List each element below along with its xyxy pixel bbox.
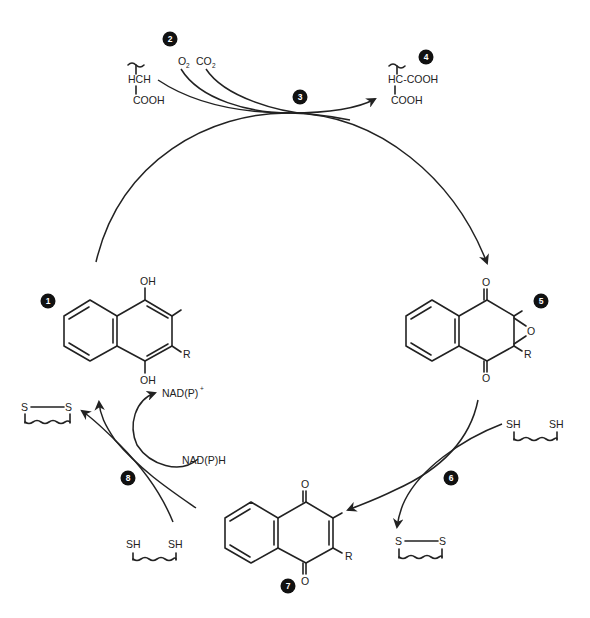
product-top-label: HC-COOH bbox=[388, 73, 438, 85]
svg-text:+: + bbox=[200, 385, 204, 392]
svg-text:S: S bbox=[65, 401, 72, 413]
protein-backbone-squiggle-icon bbox=[399, 556, 442, 559]
badge-8: 8 bbox=[121, 471, 136, 486]
carbon-dioxide-label: CO 2 bbox=[196, 55, 216, 69]
dithiol-right: SH SH bbox=[506, 418, 564, 441]
main-cycle-arc-arrow bbox=[96, 113, 487, 263]
svg-text:S: S bbox=[21, 401, 28, 413]
compound-1-hydroquinone: OH OH R bbox=[64, 275, 191, 386]
svg-text:O: O bbox=[178, 55, 186, 67]
epoxide-o-label: O bbox=[527, 325, 535, 337]
oh-top-label: OH bbox=[140, 275, 156, 287]
svg-text:2: 2 bbox=[168, 34, 173, 44]
svg-text:NAD(P): NAD(P) bbox=[162, 387, 198, 399]
svg-text:S: S bbox=[395, 535, 402, 547]
protein-backbone-squiggle-icon bbox=[514, 438, 557, 441]
badge-5: 5 bbox=[534, 294, 549, 309]
svg-text:2: 2 bbox=[212, 62, 216, 69]
substrate-top-label: HCH bbox=[128, 73, 151, 85]
svg-text:6: 6 bbox=[449, 473, 454, 483]
badge-3: 3 bbox=[293, 90, 308, 105]
badge-7: 7 bbox=[281, 579, 296, 594]
epoxide-to-quinone-arrow bbox=[348, 400, 478, 510]
compound-5-epoxide: O O O R bbox=[406, 276, 535, 384]
substrate-bottom-label: COOH bbox=[133, 94, 165, 106]
compound-7-quinone: O O R bbox=[225, 478, 353, 587]
nadp-plus-label: NAD(P) + bbox=[162, 385, 204, 399]
svg-text:CO: CO bbox=[196, 55, 212, 67]
r-group-label: R bbox=[183, 348, 191, 360]
vitamin-k-cycle-diagram: HCH COOH O 2 CO 2 HC-COOH COOH bbox=[0, 0, 590, 618]
carbonyl-o-top: O bbox=[482, 276, 490, 288]
svg-text:SH: SH bbox=[506, 418, 521, 430]
oh-bottom-label: OH bbox=[140, 374, 156, 386]
svg-text:S: S bbox=[439, 535, 446, 547]
svg-text:3: 3 bbox=[298, 92, 303, 102]
oxygen-label: O 2 bbox=[178, 55, 190, 69]
substrate-glutamate: HCH COOH bbox=[128, 63, 165, 106]
badge-2: 2 bbox=[163, 32, 178, 47]
r-group-label: R bbox=[345, 550, 353, 562]
badge-4: 4 bbox=[419, 50, 434, 65]
r-group-label: R bbox=[524, 348, 532, 360]
svg-text:SH: SH bbox=[549, 418, 564, 430]
svg-text:7: 7 bbox=[286, 581, 291, 591]
disulfide-left: S S bbox=[21, 401, 72, 424]
nadph-label: NAD(P)H bbox=[182, 454, 226, 466]
svg-text:5: 5 bbox=[539, 296, 544, 306]
product-bottom-label: COOH bbox=[391, 94, 423, 106]
oxygen-arrow bbox=[181, 69, 290, 113]
dithiol-to-disulfide-left-arrow bbox=[82, 411, 173, 522]
badge-6: 6 bbox=[444, 471, 459, 486]
svg-text:2: 2 bbox=[186, 62, 190, 69]
svg-text:4: 4 bbox=[424, 52, 429, 62]
product-gla: HC-COOH COOH bbox=[388, 64, 438, 106]
carbonyl-o-bottom: O bbox=[301, 575, 309, 587]
svg-text:SH: SH bbox=[126, 538, 141, 550]
dithiol-left: SH SH bbox=[126, 538, 183, 561]
protein-backbone-squiggle-icon bbox=[25, 421, 70, 424]
substrate-arrow bbox=[158, 80, 290, 113]
svg-text:1: 1 bbox=[46, 296, 51, 306]
protein-backbone-squiggle-icon bbox=[133, 558, 176, 561]
carbonyl-o-bottom: O bbox=[482, 372, 490, 384]
svg-text:8: 8 bbox=[126, 473, 131, 483]
disulfide-right: S S bbox=[395, 535, 446, 559]
badge-1: 1 bbox=[41, 294, 56, 309]
svg-text:SH: SH bbox=[168, 538, 183, 550]
carbonyl-o-top: O bbox=[301, 478, 309, 490]
